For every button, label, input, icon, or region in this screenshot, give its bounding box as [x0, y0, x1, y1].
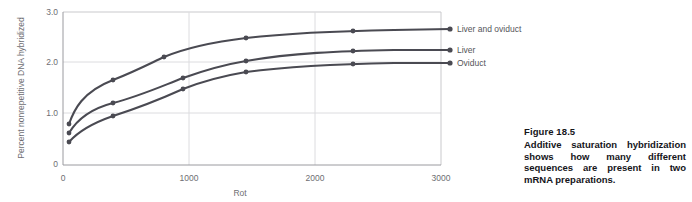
- y-axis-title: Percent nonrepetitive DNA hybridized: [16, 17, 26, 159]
- plot-gridlines: [63, 12, 441, 165]
- x-tick-label-0: 0: [61, 173, 66, 183]
- y-tick-label-3: 3.0: [46, 7, 58, 17]
- series-markers-oviduct: [67, 60, 453, 144]
- figure-container: 3.0 2.0 1.0 0 0 1000 2000 3000 Rot Perce…: [0, 0, 692, 202]
- y-tick-label-1: 1.0: [46, 108, 58, 118]
- x-tick-label-3000: 3000: [432, 173, 451, 183]
- chart-area: 3.0 2.0 1.0 0 0 1000 2000 3000 Rot Perce…: [0, 0, 530, 202]
- x-tick-label-1000: 1000: [180, 173, 199, 183]
- saturation-hybridization-chart: 3.0 2.0 1.0 0 0 1000 2000 3000 Rot Perce…: [0, 0, 530, 202]
- series-line-liver-and-oviduct: [69, 29, 450, 124]
- legend-label-liver-and-oviduct: Liver and oviduct: [457, 24, 522, 34]
- legend-label-liver: Liver: [457, 45, 476, 55]
- figure-caption-body: Additive saturation hybridization shows …: [524, 139, 686, 185]
- figure-caption-number: Figure 18.5: [524, 126, 686, 138]
- series-lines: [69, 29, 450, 142]
- legend-label-oviduct: Oviduct: [457, 58, 486, 68]
- y-tick-label-2: 2.0: [46, 57, 58, 67]
- x-axis-title: Rot: [233, 188, 247, 198]
- y-tick-label-0: 0: [53, 159, 58, 169]
- series-markers-liver: [67, 47, 453, 135]
- x-tick-label-2000: 2000: [306, 173, 325, 183]
- figure-caption: Figure 18.5 Additive saturation hybridiz…: [524, 126, 686, 185]
